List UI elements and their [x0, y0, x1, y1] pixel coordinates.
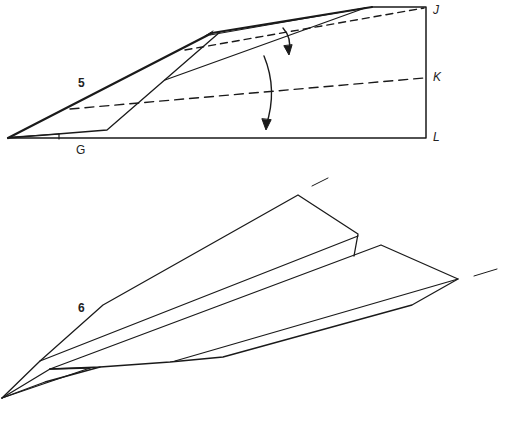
base-edge	[8, 7, 426, 138]
fold-line-k	[70, 78, 424, 109]
point-label-j: J	[433, 4, 439, 16]
fold-line-j	[185, 8, 424, 50]
point-label-k: K	[433, 71, 441, 83]
step-6-airplane	[2, 178, 497, 398]
point-label-g: G	[76, 144, 85, 156]
step-5-drawing	[0, 0, 507, 424]
folding-diagram: 5 J K L G 6	[0, 0, 507, 424]
step-number-5: 5	[78, 77, 85, 89]
point-label-l: L	[433, 131, 440, 143]
step-number-6: 6	[78, 302, 85, 314]
